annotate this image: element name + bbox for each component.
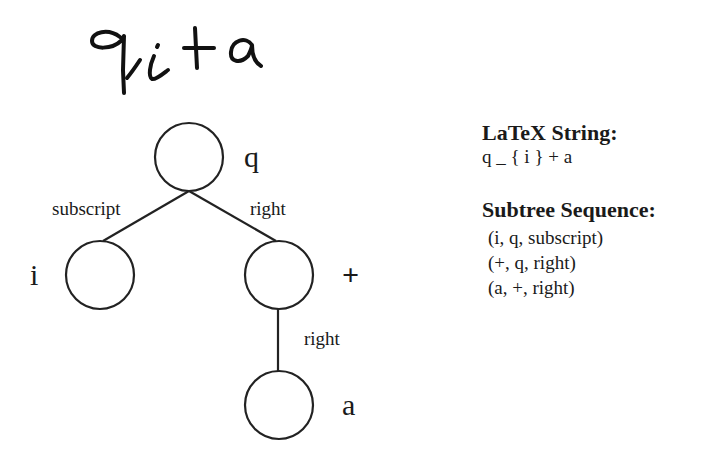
latex-heading: LaTeX String: [482, 120, 617, 146]
edge-label-right-1: right [250, 198, 286, 220]
edge-label-right-2: right [304, 328, 340, 350]
node-label-q: q [244, 140, 259, 174]
subtree-item: (+, q, right) [488, 250, 656, 275]
subtree-heading: Subtree Sequence: [482, 197, 656, 223]
node-label-plus: + [342, 258, 359, 292]
node-label-a: a [342, 388, 355, 422]
subtree-item: (i, q, subscript) [488, 225, 656, 250]
edge-label-subscript: subscript [52, 198, 121, 220]
latex-section: LaTeX String: q _ { i } + a [482, 120, 617, 168]
latex-value: q _ { i } + a [482, 146, 617, 168]
subtree-item: (a, +, right) [488, 275, 656, 300]
node-label-i: i [30, 258, 38, 292]
handwritten-expression [92, 28, 261, 93]
subtree-section: Subtree Sequence: (i, q, subscript) (+, … [482, 197, 656, 300]
